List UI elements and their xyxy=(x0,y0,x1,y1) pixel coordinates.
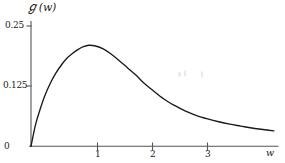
x-tick-label-3: 3 xyxy=(205,150,211,159)
scan-artifact xyxy=(178,72,181,77)
scan-artifact xyxy=(184,70,186,77)
y-axis-label-argument: (w) xyxy=(39,1,56,14)
y-axis-label-symbol: ℊ xyxy=(26,0,39,14)
chart-figure: ℊ(w) w 0 0.125 0.25 1 2 3 xyxy=(0,0,285,163)
y-axis-label: ℊ(w) xyxy=(26,1,56,14)
data-series-line xyxy=(31,45,274,146)
y-tick-label-0.125: 0.125 xyxy=(3,81,27,90)
plot-canvas xyxy=(0,0,285,163)
x-tick-label-1: 1 xyxy=(95,150,101,159)
scan-artifact xyxy=(201,71,203,78)
x-axis-label: w xyxy=(266,148,274,158)
x-tick-label-2: 2 xyxy=(150,150,156,159)
y-tick-label-0.25: 0.25 xyxy=(5,21,24,30)
y-tick-label-0: 0 xyxy=(4,142,9,151)
